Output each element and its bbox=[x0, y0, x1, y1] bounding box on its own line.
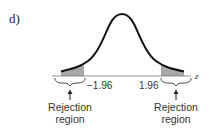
left-rejection-line2: region bbox=[40, 113, 100, 125]
left-arrow-icon bbox=[68, 90, 73, 95]
tick-label-right: 1.96 bbox=[139, 80, 159, 91]
right-rejection-label: Rejection region bbox=[146, 101, 206, 125]
left-rejection-label: Rejection region bbox=[40, 101, 100, 125]
left-brace bbox=[55, 78, 85, 86]
normal-curve bbox=[61, 14, 184, 72]
tick-label-left: −1.96 bbox=[87, 80, 113, 91]
right-brace bbox=[161, 78, 191, 86]
axis-label-z: z bbox=[194, 71, 199, 81]
right-rejection-line1: Rejection bbox=[146, 101, 206, 113]
left-rejection-line1: Rejection bbox=[40, 101, 100, 113]
right-rejection-line2: region bbox=[146, 113, 206, 125]
right-arrow-icon bbox=[174, 90, 179, 95]
